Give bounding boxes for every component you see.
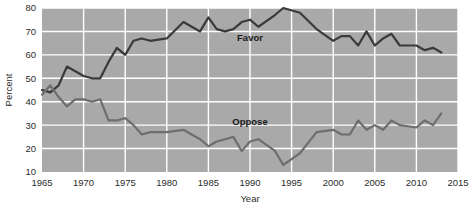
y-tick-label: 70 [25, 26, 36, 37]
x-tick-label: 1980 [156, 177, 177, 188]
y-axis-tick-labels: 1020304050607080 [25, 2, 36, 177]
chart-container: 1020304050607080 19651970197519801985199… [0, 0, 475, 207]
y-tick-label: 30 [25, 120, 36, 131]
x-tick-label: 2005 [364, 177, 385, 188]
y-axis-title: Percent [3, 73, 14, 106]
y-tick-label: 10 [25, 166, 36, 177]
y-tick-label: 20 [25, 143, 36, 154]
y-tick-label: 40 [25, 96, 36, 107]
series-label-oppose: Oppose [232, 116, 267, 127]
x-tick-label: 2000 [323, 177, 344, 188]
x-tick-label: 1985 [198, 177, 219, 188]
x-axis-title: Year [240, 193, 259, 204]
x-tick-label: 2015 [447, 177, 468, 188]
x-axis-tick-labels: 1965197019751980198519901995200020052010… [31, 177, 468, 188]
x-tick-label: 1995 [281, 177, 302, 188]
y-tick-label: 60 [25, 49, 36, 60]
series-label-favor: Favor [237, 32, 263, 43]
y-tick-label: 50 [25, 73, 36, 84]
x-tick-label: 2010 [406, 177, 427, 188]
x-tick-label: 1990 [239, 177, 260, 188]
line-chart: 1020304050607080 19651970197519801985199… [0, 0, 475, 207]
x-tick-label: 1975 [115, 177, 136, 188]
y-tick-label: 80 [25, 2, 36, 13]
x-tick-label: 1970 [73, 177, 94, 188]
x-tick-label: 1965 [31, 177, 52, 188]
